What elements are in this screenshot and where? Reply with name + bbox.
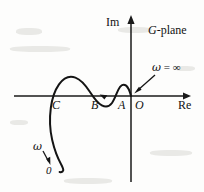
imaginary-axis-label: Im <box>106 16 119 28</box>
locus-direction-arrowhead <box>100 94 108 99</box>
axes-group <box>14 15 191 182</box>
nyquist-locus-group <box>50 77 131 172</box>
real-axis-label: Re <box>178 99 191 111</box>
nyquist-locus-path <box>50 77 131 172</box>
point-label-b: B <box>91 99 98 111</box>
equals-symbol: = <box>161 61 173 73</box>
plane-label: G-plane <box>148 24 187 36</box>
plane-label-symbol: G <box>148 23 157 37</box>
nyquist-plot-figure: Im Re G-plane C B A O ω = ∞ ω 0 <box>0 0 204 192</box>
omega-infinity-label: ω = ∞ <box>152 62 181 73</box>
infinity-symbol: ∞ <box>173 61 181 73</box>
imaginary-axis-arrowhead <box>127 15 134 24</box>
omega-zero-omega-label: ω <box>33 141 42 152</box>
point-label-c: C <box>52 99 60 111</box>
omega-zero-leader <box>43 151 50 165</box>
omega-zero-value-label: 0 <box>46 165 52 176</box>
point-label-a: A <box>118 99 125 111</box>
point-label-origin: O <box>135 99 144 111</box>
omega-symbol: ω <box>152 61 161 74</box>
omega-infinity-leader <box>134 75 155 93</box>
plane-label-suffix: -plane <box>157 23 187 37</box>
